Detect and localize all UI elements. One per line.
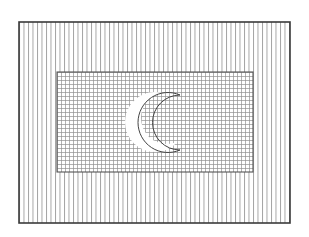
flag-figure <box>0 0 309 237</box>
crescent-icon <box>0 0 309 237</box>
